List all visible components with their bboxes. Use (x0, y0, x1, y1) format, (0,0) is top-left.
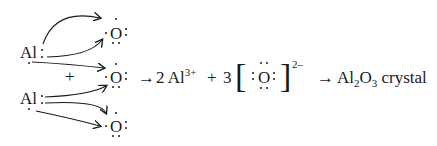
electron-dot (260, 87, 262, 89)
electron-dot (105, 76, 107, 78)
oxygen-atom-2: O (110, 69, 122, 86)
oxygen-atom-3: O (110, 118, 122, 135)
electron-dot (252, 78, 254, 80)
electron-dot (266, 87, 268, 89)
oxide-ion: O (258, 69, 270, 86)
plus-sign-products: + (207, 69, 217, 86)
al-symbol: Al (20, 89, 37, 108)
electron-dot (266, 62, 268, 64)
reaction-arrow-2: → (317, 69, 334, 86)
cation-symbol: Al (168, 68, 185, 87)
formula-al: Al (337, 68, 354, 87)
formula-o-subscript: 3 (372, 77, 378, 89)
electron-dot (41, 102, 43, 104)
anion-coefficient: 3 (223, 69, 232, 86)
electron-dot (273, 72, 275, 74)
electron-dot (118, 42, 120, 44)
formula-o: O (360, 68, 372, 87)
crystal-label: crystal (382, 68, 427, 87)
electron-dot (125, 34, 127, 36)
electron-dot (125, 28, 127, 30)
electron-dot (115, 18, 117, 20)
product-formula: Al2O3 crystal (337, 69, 427, 86)
left-bracket: [ (235, 59, 246, 93)
electron-dot (28, 62, 30, 64)
electron-dot (260, 62, 262, 64)
electron-dot (112, 135, 114, 137)
cation-charge: 3+ (185, 66, 197, 78)
aluminum-atom-2: Al (20, 90, 37, 107)
electron-dot (125, 72, 127, 74)
right-bracket: ] (280, 59, 291, 93)
electron-dot (118, 135, 120, 137)
electron-dot (112, 42, 114, 44)
anion-charge: 2– (292, 58, 303, 70)
al-symbol: Al (20, 43, 37, 62)
electron-dot (105, 125, 107, 127)
cation-term: 2 Al3+ (156, 69, 197, 86)
electron-dot (115, 63, 117, 65)
cation-coefficient: 2 (156, 68, 165, 87)
electron-dot (28, 108, 30, 110)
oxygen-atom-1: O (110, 25, 122, 42)
aluminum-atom-1: Al (20, 44, 37, 61)
electron-dot (125, 78, 127, 80)
electron-dot (252, 72, 254, 74)
electron-dot (125, 121, 127, 123)
electron-dot (41, 49, 43, 51)
plus-sign: + (65, 68, 75, 85)
electron-dot (125, 127, 127, 129)
electron-dot (273, 78, 275, 80)
electron-dot (105, 32, 107, 34)
electron-dot (115, 112, 117, 114)
electron-dot (112, 86, 114, 88)
electron-dot (41, 95, 43, 97)
electron-dot (118, 86, 120, 88)
electron-dot (41, 56, 43, 58)
reaction-arrow-1: → (138, 69, 155, 86)
